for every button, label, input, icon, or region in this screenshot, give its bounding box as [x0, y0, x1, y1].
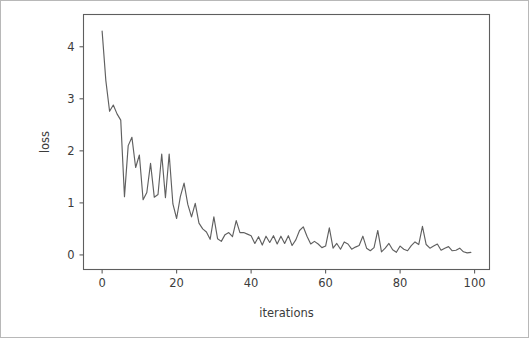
- y-tick-label: 0: [67, 248, 74, 262]
- y-tick-label: 3: [67, 92, 74, 106]
- x-tick-label: 80: [393, 276, 408, 290]
- screenshot-root: 020406080100 01234 iterations loss: [0, 0, 529, 338]
- x-tick-label: 100: [464, 276, 486, 290]
- loss-chart: 020406080100 01234 iterations loss: [1, 1, 528, 337]
- matplotlib-figure: 020406080100 01234 iterations loss: [1, 1, 528, 337]
- x-tick-label: 20: [169, 276, 184, 290]
- y-tick-label: 2: [67, 144, 74, 158]
- y-axis-label: loss: [38, 131, 52, 153]
- x-axis-label: iterations: [259, 306, 314, 320]
- x-tick-label: 40: [244, 276, 259, 290]
- y-tick-label: 1: [67, 196, 74, 210]
- x-tick-label: 60: [318, 276, 333, 290]
- y-tick-label: 4: [67, 40, 74, 54]
- figure-background: [1, 1, 528, 337]
- x-tick-label: 0: [98, 276, 105, 290]
